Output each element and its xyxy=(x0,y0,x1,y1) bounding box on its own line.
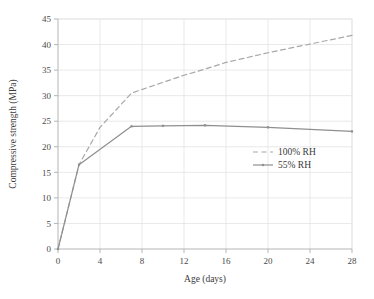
series-marker xyxy=(130,125,132,127)
series-marker xyxy=(267,126,269,128)
y-axis-tick-label: 10 xyxy=(42,193,52,203)
y-axis-tick-label: 30 xyxy=(42,91,52,101)
x-axis-title: Age (days) xyxy=(184,274,226,285)
y-axis-tick-label: 5 xyxy=(47,219,52,229)
chart-container: 0510152025303540450481216202428Age (days… xyxy=(0,0,374,299)
y-axis-title: Compressive strength (MPa) xyxy=(8,79,19,188)
y-axis-tick-label: 25 xyxy=(42,116,52,126)
x-axis-tick-label: 0 xyxy=(56,256,61,266)
plot-area-background xyxy=(58,19,352,249)
legend-swatch-marker-1 xyxy=(262,164,264,166)
y-axis-tick-label: 40 xyxy=(42,40,52,50)
x-axis-tick-label: 8 xyxy=(140,256,145,266)
x-axis-tick-label: 4 xyxy=(98,256,103,266)
legend-label-1: 55% RH xyxy=(278,160,311,170)
line-chart: 0510152025303540450481216202428Age (days… xyxy=(0,0,374,299)
series-marker xyxy=(57,248,59,250)
x-axis-tick-label: 20 xyxy=(264,256,274,266)
y-axis-tick-label: 45 xyxy=(42,14,52,24)
x-axis-tick-label: 24 xyxy=(306,256,316,266)
series-marker xyxy=(204,124,206,126)
y-axis-tick-label: 0 xyxy=(47,244,52,254)
x-axis-tick-label: 16 xyxy=(222,256,232,266)
series-marker xyxy=(351,130,353,132)
y-axis-tick-label: 35 xyxy=(42,65,52,75)
series-marker xyxy=(78,164,80,166)
y-axis-tick-label: 20 xyxy=(42,142,52,152)
y-axis-tick-label: 15 xyxy=(42,168,52,178)
series-marker xyxy=(162,125,164,127)
legend-label-0: 100% RH xyxy=(278,147,316,157)
x-axis-tick-label: 12 xyxy=(180,256,189,266)
x-axis-tick-label: 28 xyxy=(348,256,358,266)
